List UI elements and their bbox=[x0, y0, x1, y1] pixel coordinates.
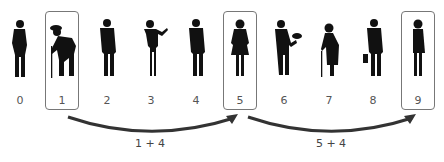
jump-arrows bbox=[0, 0, 444, 162]
jump-label-2: 5 + 4 bbox=[301, 137, 361, 150]
jump-label-1: 1 + 4 bbox=[120, 137, 180, 150]
